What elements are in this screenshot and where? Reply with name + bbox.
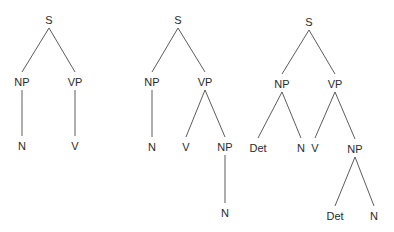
tree-node-label: S <box>45 14 52 26</box>
tree-node-label: N <box>18 140 26 152</box>
tree-edge <box>282 92 301 138</box>
tree-node-label: N <box>370 210 378 222</box>
tree-node-label: NP <box>144 76 159 88</box>
tree-edge <box>282 30 309 74</box>
tree-edge <box>315 92 335 138</box>
tree-node-label: NP <box>347 143 362 155</box>
tree-node-label: N <box>297 142 305 154</box>
syntax-tree-diagram: SNPVPNVSNPVPNVNPNSNPVPDetNVNPDetN <box>0 0 394 232</box>
tree-node-label: VP <box>68 76 83 88</box>
tree-edge <box>309 30 335 74</box>
tree-node-label: V <box>311 142 319 154</box>
tree-2: SNPVPNVNPN <box>144 14 232 219</box>
tree-node-label: VP <box>198 76 213 88</box>
tree-canvas: SNPVPNVSNPVPNVNPNSNPVPDetNVNPDetN <box>0 0 394 232</box>
tree-edge <box>355 157 374 206</box>
tree-edge <box>258 92 282 138</box>
tree-edge <box>335 157 355 206</box>
tree-node-label: V <box>71 140 79 152</box>
tree-1: SNPVPNV <box>14 14 82 152</box>
tree-node-label: Det <box>249 142 266 154</box>
tree-edge <box>49 28 75 72</box>
tree-edge <box>178 28 205 72</box>
tree-edge <box>205 90 225 137</box>
tree-node-label: VP <box>328 78 343 90</box>
tree-node-label: N <box>148 141 156 153</box>
tree-edge <box>152 28 178 72</box>
tree-3: SNPVPDetNVNPDetN <box>249 16 378 222</box>
tree-edge <box>22 28 49 72</box>
tree-edge <box>186 90 205 137</box>
tree-node-label: S <box>174 14 181 26</box>
tree-edge <box>335 92 355 139</box>
tree-node-label: N <box>221 207 229 219</box>
tree-node-label: NP <box>217 141 232 153</box>
tree-node-label: NP <box>274 78 289 90</box>
tree-node-label: V <box>182 141 190 153</box>
tree-node-label: NP <box>14 76 29 88</box>
tree-node-label: Det <box>326 210 343 222</box>
tree-node-label: S <box>305 16 312 28</box>
